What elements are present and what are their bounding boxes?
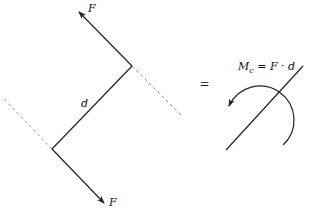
couple-moment-diagram: F F d = Mc = F · d bbox=[0, 0, 309, 213]
equals-sign: = bbox=[200, 76, 209, 93]
distance-segment bbox=[52, 66, 132, 149]
force-label-top: F bbox=[87, 2, 96, 15]
moment-label: Mc = F · d bbox=[237, 60, 295, 75]
force-arrow-top bbox=[79, 12, 132, 66]
line-of-action-top bbox=[132, 66, 183, 117]
distance-label: d bbox=[81, 97, 88, 110]
line-of-action-bottom bbox=[4, 99, 52, 149]
force-arrow-bottom bbox=[52, 149, 104, 203]
force-label-bottom: F bbox=[108, 196, 117, 209]
